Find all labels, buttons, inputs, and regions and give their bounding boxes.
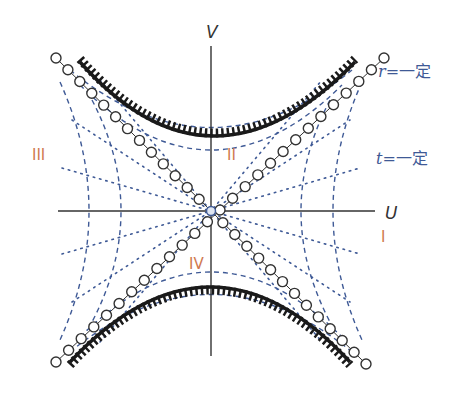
r-const-label: r=一定 — [378, 64, 431, 80]
kruskal-diagram — [0, 0, 467, 394]
region-label-i: I — [381, 230, 385, 245]
t-const-text: =一定 — [382, 149, 427, 168]
region-label-iv: IV — [189, 257, 204, 272]
origin-marker — [207, 207, 216, 216]
axes — [58, 46, 375, 356]
v-axis-label: V — [206, 24, 218, 41]
t-const-label: t=一定 — [376, 151, 428, 167]
region-label-ii: II — [227, 148, 236, 163]
region-label-iii: III — [32, 148, 45, 163]
u-axis-label: U — [385, 205, 397, 222]
r-variable: r — [378, 62, 386, 81]
past-singularity — [70, 287, 350, 362]
r-const-text: =一定 — [386, 62, 431, 81]
